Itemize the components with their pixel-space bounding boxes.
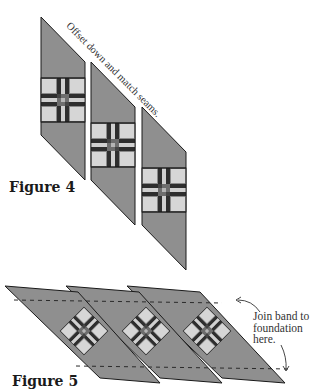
figure-5-label: Figure 5 <box>12 373 78 389</box>
join-band-note: Join band to foundation here. <box>253 311 309 346</box>
figure-4-piece-3 <box>142 107 186 270</box>
arrow-to-bottom-seam-icon <box>281 345 289 371</box>
figure-5-band <box>5 286 290 383</box>
note-line-1: Join band to <box>253 311 309 323</box>
figure-4-label: Figure 4 <box>9 179 75 195</box>
note-line-3: here. <box>253 334 309 346</box>
